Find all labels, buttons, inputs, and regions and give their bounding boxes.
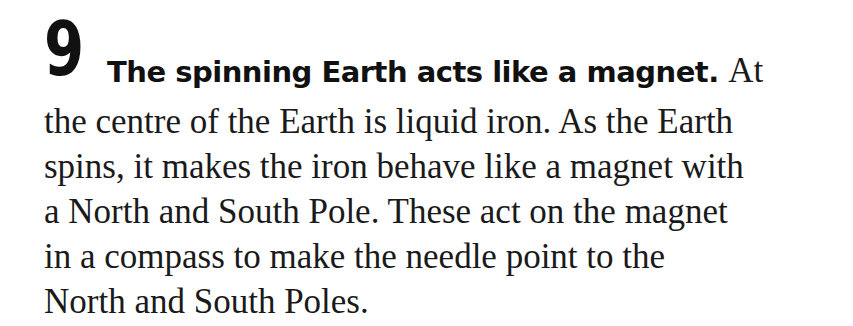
- body-line: a North and South Pole. These act on the…: [44, 189, 728, 234]
- body-line: spins, it makes the iron behave like a m…: [44, 144, 744, 189]
- fact-first-text: The spinning Earth acts like a magnet. A…: [107, 48, 763, 95]
- fact-paragraph: 9 The spinning Earth acts like a magnet.…: [44, 8, 844, 98]
- fact-first-line-tail: At: [728, 51, 763, 90]
- fact-heading: The spinning Earth acts like a magnet.: [107, 55, 728, 89]
- body-line: the centre of the Earth is liquid iron. …: [44, 99, 733, 144]
- fact-first-line: 9 The spinning Earth acts like a magnet.…: [44, 8, 844, 98]
- fact-number: 9: [44, 12, 84, 86]
- body-line: North and South Poles.: [44, 279, 369, 324]
- body-line: in a compass to make the needle point to…: [44, 234, 665, 279]
